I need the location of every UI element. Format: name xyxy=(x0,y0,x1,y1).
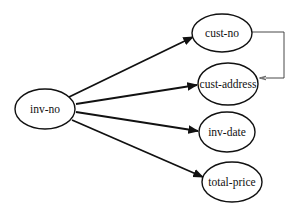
inv-no-label: inv-no xyxy=(30,103,60,115)
total-price-label: total-price xyxy=(208,176,255,189)
inv-date-label: inv-date xyxy=(208,126,246,138)
node-cust-no: cust-no xyxy=(192,14,252,52)
dependency-diagram: inv-no cust-no cust-address inv-date tot… xyxy=(0,0,297,212)
transitive-dependency-connector xyxy=(252,32,284,78)
edge-inv-no-to-inv-date xyxy=(76,112,198,131)
node-inv-date: inv-date xyxy=(199,112,255,152)
edge-inv-no-to-cust-address xyxy=(76,85,197,104)
node-total-price: total-price xyxy=(202,162,262,202)
cust-no-label: cust-no xyxy=(205,27,239,39)
edges xyxy=(69,37,203,177)
node-cust-address: cust-address xyxy=(198,63,258,105)
cust-address-label: cust-address xyxy=(200,78,257,90)
node-inv-no: inv-no xyxy=(15,89,75,129)
